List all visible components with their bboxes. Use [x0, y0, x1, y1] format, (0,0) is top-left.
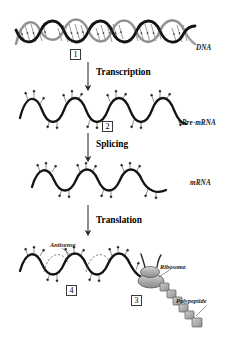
- label-antisense: Antisense: [50, 242, 76, 248]
- label-dna: DNA: [196, 45, 211, 52]
- mrna-template: [20, 254, 152, 279]
- antisense-leader: [62, 248, 72, 256]
- step-box-3[interactable]: 3: [131, 295, 142, 306]
- dna-double-helix: [16, 20, 195, 45]
- ribosome-small-subunit: [141, 267, 160, 278]
- step-box-4[interactable]: 4: [66, 285, 77, 296]
- antisense-arcs: [44, 255, 110, 272]
- label-pre-mrna: Pre-mRNA: [182, 120, 216, 127]
- mrna-strand: [32, 162, 166, 199]
- figure-canvas: DNA Pre-mRNA mRNA Transcription Splicing…: [0, 0, 230, 340]
- step-box-2[interactable]: 2: [102, 121, 113, 132]
- label-transcription: Transcription: [96, 68, 151, 77]
- label-splicing: Splicing: [96, 140, 128, 149]
- translation-complex: [20, 246, 206, 327]
- label-mrna: mRNA: [190, 180, 211, 187]
- label-translation: Translation: [96, 216, 142, 225]
- step-box-1[interactable]: 1: [70, 49, 81, 60]
- label-ribosome: Ribosome: [160, 264, 186, 270]
- polypeptide-chain: [160, 283, 202, 327]
- polypeptide-leader: [196, 306, 206, 316]
- label-polypeptide: Polypeptide: [176, 298, 207, 304]
